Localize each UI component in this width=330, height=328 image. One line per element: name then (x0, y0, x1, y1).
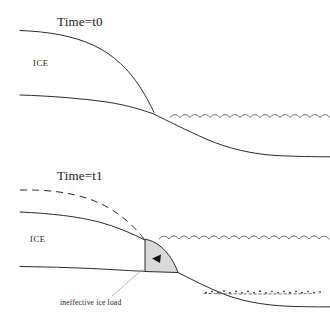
t0-seafloor-curve (153, 114, 330, 157)
t1-sediment-dotted-line (204, 290, 321, 294)
t1-seafloor-curve (178, 273, 330, 307)
ineffective-ice-load-wedge (145, 240, 178, 273)
panel-t0-ice-label: ICE (33, 58, 49, 68)
annotation-leader-line (112, 269, 143, 296)
panel-t0-time-label: Time=t0 (57, 14, 103, 30)
panel-t1-graphics (20, 190, 330, 307)
figure-root: Time=t0 ICE Time=t1 ICE ineffective ice … (0, 0, 330, 328)
t1-water-surface-wave-line (159, 236, 329, 239)
panel-t1-ice-label: ICE (30, 234, 46, 244)
panel-t1-time-label: Time=t1 (57, 168, 103, 184)
t0-water-surface-wave-line (170, 115, 330, 118)
t1-ice-base-curve (20, 267, 145, 272)
panel-t0-graphics (20, 31, 330, 157)
t1-former-ice-surface-dashed-curve (20, 190, 164, 269)
t0-ice-surface-curve (20, 31, 154, 113)
ineffective-ice-load-label: ineffective ice load (60, 298, 121, 307)
diagram-canvas (0, 0, 330, 328)
t0-ice-base-curve (20, 95, 153, 114)
